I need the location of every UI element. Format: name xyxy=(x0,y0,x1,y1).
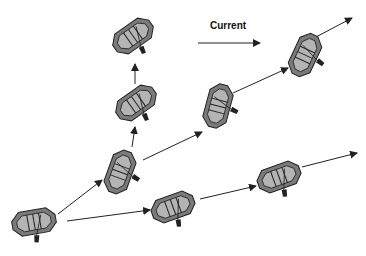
raft-icon xyxy=(101,147,147,200)
path-arrow xyxy=(200,186,256,199)
diagram-canvas xyxy=(0,0,366,256)
raft-icon xyxy=(10,206,59,246)
path-arrow xyxy=(143,132,202,160)
raft-icon xyxy=(111,81,166,133)
raft-icon xyxy=(285,30,334,84)
path-arrow xyxy=(132,127,135,147)
path-arrow xyxy=(314,18,352,38)
path-arrow xyxy=(302,153,357,167)
raft-icon xyxy=(108,14,163,66)
path-arrow xyxy=(67,210,150,221)
raft-icon xyxy=(201,82,244,133)
raft-icon xyxy=(254,158,307,204)
raft-icon xyxy=(148,188,201,234)
rafts xyxy=(10,14,333,247)
raft-diagram: Current xyxy=(0,0,366,256)
path-arrow xyxy=(58,180,102,214)
path-arrow xyxy=(233,68,288,93)
